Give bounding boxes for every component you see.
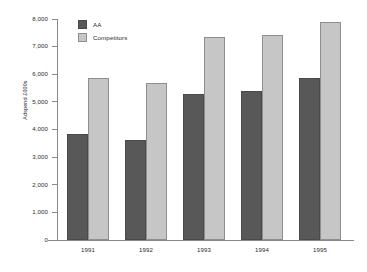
legend-swatch-aa-icon	[78, 20, 87, 29]
bar-competitors-1991	[88, 78, 109, 240]
x-axis-label-1992: 1992	[125, 246, 167, 253]
bar-aa-1995	[299, 78, 320, 240]
y-axis-tick-label: 3,000	[0, 153, 48, 160]
y-axis-tick-label: 1,000	[0, 208, 48, 215]
bar-group	[67, 19, 109, 240]
bar-chart: Adspend £000s 01,0002,0003,0004,0005,000…	[0, 0, 367, 272]
bar-group	[183, 19, 225, 240]
x-axis-label-1995: 1995	[299, 246, 341, 253]
y-axis-tick-label: 6,000	[0, 70, 48, 77]
legend-item-aa: AA	[78, 19, 127, 30]
y-axis-tick-label: 4,000	[0, 125, 48, 132]
legend-item-competitors: Competitors	[78, 32, 127, 43]
bar-aa-1993	[183, 94, 204, 240]
y-axis-tick-label: 8,000	[0, 15, 48, 22]
legend-swatch-competitors-icon	[78, 33, 87, 42]
bar-group	[299, 19, 341, 240]
chart-legend: AA Competitors	[78, 19, 127, 45]
y-axis-tick-label: 5,000	[0, 98, 48, 105]
x-axis-label-1993: 1993	[183, 246, 225, 253]
y-axis-tick-label: 2,000	[0, 181, 48, 188]
y-axis-tick-label: 0	[0, 236, 48, 243]
x-axis-line	[48, 240, 354, 241]
x-axis-label-1991: 1991	[67, 246, 109, 253]
bar-competitors-1995	[320, 22, 341, 240]
bar-competitors-1993	[204, 37, 225, 240]
plot-area	[57, 19, 347, 240]
bar-competitors-1992	[146, 83, 167, 240]
legend-label-aa: AA	[93, 21, 101, 28]
bar-group	[241, 19, 283, 240]
bar-aa-1994	[241, 91, 262, 240]
legend-label-competitors: Competitors	[93, 34, 127, 41]
bar-competitors-1994	[262, 35, 283, 240]
bar-group	[125, 19, 167, 240]
bar-aa-1991	[67, 134, 88, 240]
bar-aa-1992	[125, 140, 146, 240]
y-axis-tick-label: 7,000	[0, 42, 48, 49]
x-axis-label-1994: 1994	[241, 246, 283, 253]
